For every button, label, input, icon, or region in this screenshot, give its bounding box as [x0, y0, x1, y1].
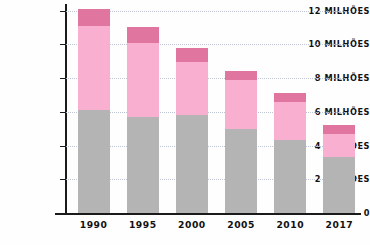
bar-segment-2005-middle — [225, 80, 257, 129]
gridline-4 — [66, 146, 361, 148]
bar-segment-1990-base — [78, 110, 110, 213]
gridline-2 — [66, 179, 361, 181]
bar-2005[interactable] — [225, 4, 257, 213]
bar-1995[interactable] — [127, 4, 159, 213]
bar-segment-2000-base — [176, 115, 208, 213]
gridline-10 — [66, 44, 361, 46]
x-tick-label-2010: 2010 — [266, 219, 314, 230]
bar-segment-2005-top — [225, 71, 257, 79]
bar-segment-1995-middle — [127, 43, 159, 117]
bar-segment-1995-base — [127, 117, 159, 213]
plot-area — [66, 4, 361, 213]
bar-segment-1990-top — [78, 9, 110, 26]
x-tick-label-1990: 1990 — [70, 219, 118, 230]
gridline-6 — [66, 112, 361, 114]
x-tick-label-1995: 1995 — [119, 219, 167, 230]
bar-segment-2017-middle — [323, 134, 355, 158]
bar-segment-1990-middle — [78, 26, 110, 110]
bar-segment-2000-middle — [176, 62, 208, 115]
bar-1990[interactable] — [78, 4, 110, 213]
bar-segment-2017-base — [323, 157, 355, 213]
bar-2017[interactable] — [323, 4, 355, 213]
bar-segment-2010-middle — [274, 102, 306, 141]
bar-segment-2017-top — [323, 125, 355, 133]
y-tick-mark-0 — [60, 213, 66, 214]
bar-segment-2010-top — [274, 93, 306, 101]
x-tick-label-2017: 2017 — [315, 219, 363, 230]
bar-2000[interactable] — [176, 4, 208, 213]
bar-segment-2000-top — [176, 48, 208, 62]
gridline-12 — [66, 11, 361, 13]
bar-segment-1995-top — [127, 27, 159, 42]
x-tick-label-2005: 2005 — [217, 219, 265, 230]
bar-2010[interactable] — [274, 4, 306, 213]
gridline-8 — [66, 78, 361, 80]
bar-segment-2005-base — [225, 129, 257, 213]
x-tick-label-2000: 2000 — [168, 219, 216, 230]
bar-segment-2010-base — [274, 140, 306, 213]
bar-chart: 12 MILHÕES10 MILHÕES8 MILHÕES6 MILHÕES4 … — [0, 0, 370, 245]
